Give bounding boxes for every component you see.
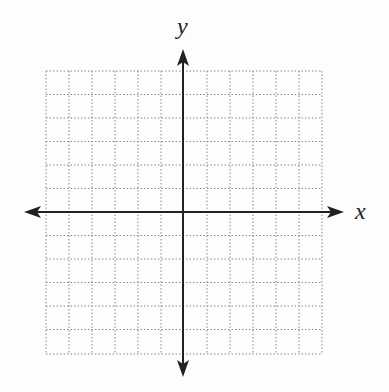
y-axis-label: y: [177, 14, 188, 38]
coordinate-plane: y x: [0, 0, 389, 392]
x-axis-label: x: [355, 199, 366, 223]
coordinate-grid: [0, 0, 389, 392]
